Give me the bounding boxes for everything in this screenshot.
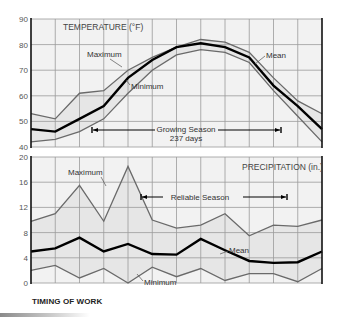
y-tick-label: 8 <box>24 229 29 238</box>
label-growing-season: Growing Season <box>156 125 215 134</box>
label-temp-minimum: Minimum <box>131 82 164 91</box>
label-temp-mean: Mean <box>266 51 286 60</box>
climate-chart: 405060708090TEMPERATURE (°F)MaximumMinim… <box>0 0 341 322</box>
y-tick-label: 40 <box>19 143 28 152</box>
caption-timing-of-work: TIMING OF WORK <box>32 297 102 306</box>
label-precip-maximum: Maximum <box>68 168 103 177</box>
label-reliable-season: Reliable Season <box>171 193 229 202</box>
y-tick-label: 50 <box>19 117 28 126</box>
precipitation-panel: 048121620PRECIPITATION (in.)MaximumMeanM… <box>19 153 323 288</box>
precipitation-title: PRECIPITATION (in.) <box>242 162 323 172</box>
temperature-title: TEMPERATURE (°F) <box>63 22 143 32</box>
y-tick-label: 80 <box>19 41 28 50</box>
label-growing-days: 237 days <box>170 134 202 143</box>
y-tick-label: 70 <box>19 66 28 75</box>
label-precip-mean: Mean <box>229 246 249 255</box>
decorative-fade-bar <box>0 313 90 317</box>
y-tick-label: 90 <box>19 15 28 24</box>
temperature-panel: 405060708090TEMPERATURE (°F)MaximumMinim… <box>19 15 322 152</box>
y-tick-label: 60 <box>19 92 28 101</box>
y-tick-label: 0 <box>24 279 29 288</box>
y-tick-label: 20 <box>19 153 28 162</box>
y-tick-label: 12 <box>19 203 28 212</box>
y-tick-label: 4 <box>24 254 29 263</box>
label-precip-minimum: Minimum <box>144 278 177 287</box>
label-temp-maximum: Maximum <box>87 50 122 59</box>
y-tick-label: 16 <box>19 178 28 187</box>
